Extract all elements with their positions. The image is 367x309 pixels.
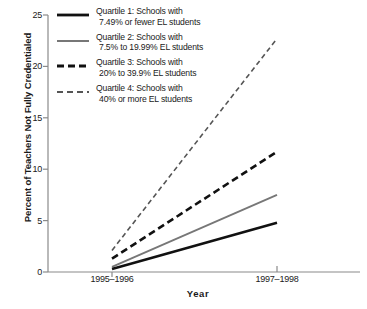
legend-label-quartile-2-line2: 7.5% to 19.99% EL students <box>96 42 203 53</box>
legend-label-quartile-3-line2: 20% to 39.9% EL students <box>96 68 196 79</box>
legend-label-quartile-4-line2: 40% or more EL students <box>96 94 192 105</box>
legend-item-quartile-1: Quartile 1: Schools with 7.49% or fewer … <box>56 6 271 27</box>
chart-legend: Quartile 1: Schools with 7.49% or fewer … <box>56 6 271 109</box>
legend-label-quartile-4-line1: Quartile 4: Schools with <box>96 83 183 93</box>
chart-figure: Percent of Teachers Not Fully Credential… <box>0 0 367 309</box>
series-line-quartile-1 <box>112 223 277 269</box>
legend-sample-quartile-1 <box>56 8 90 22</box>
legend-sample-quartile-4 <box>56 85 90 99</box>
legend-label-quartile-3-line1: Quartile 3: Schools with <box>96 57 183 67</box>
legend-label-quartile-2-line1: Quartile 2: Schools with <box>96 32 183 42</box>
legend-label-quartile-1-line1: Quartile 1: Schools with <box>96 6 183 16</box>
legend-sample-quartile-3 <box>56 59 90 73</box>
legend-label-quartile-2: Quartile 2: Schools with 7.5% to 19.99% … <box>96 32 203 53</box>
legend-item-quartile-2: Quartile 2: Schools with 7.5% to 19.99% … <box>56 32 271 53</box>
legend-item-quartile-4: Quartile 4: Schools with 40% or more EL … <box>56 83 271 104</box>
legend-sample-quartile-2 <box>56 34 90 48</box>
legend-label-quartile-3: Quartile 3: Schools with 20% to 39.9% EL… <box>96 57 196 78</box>
legend-label-quartile-1-line2: 7.49% or fewer EL students <box>96 17 200 28</box>
legend-item-quartile-3: Quartile 3: Schools with 20% to 39.9% EL… <box>56 57 271 78</box>
legend-label-quartile-4: Quartile 4: Schools with 40% or more EL … <box>96 83 192 104</box>
legend-label-quartile-1: Quartile 1: Schools with 7.49% or fewer … <box>96 6 200 27</box>
